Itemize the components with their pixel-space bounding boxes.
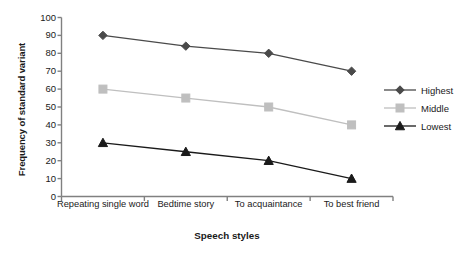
legend-swatch-square-icon [383,101,417,115]
series-line-middle [103,89,352,125]
x-axis-tick-labels: Repeating single wordBedtime storyTo acq… [0,199,464,233]
series-lowest [98,138,356,182]
legend-item-middle[interactable]: Middle [383,99,453,117]
data-point-diamond [264,49,272,57]
series-middle [99,85,356,129]
data-point-square [182,94,190,102]
legend-item-highest[interactable]: Highest [383,81,453,99]
series-line-highest [103,35,352,71]
data-point-square [265,103,273,111]
data-point-triangle [98,138,107,146]
data-point-square [396,104,404,112]
data-point-diamond [99,31,107,39]
legend-swatch-diamond-icon [383,83,417,97]
x-axis-title: Speech styles [61,230,393,241]
legend-label: Lowest [421,121,451,132]
series-line-lowest [103,143,352,179]
series-highest [99,31,356,75]
legend-label: Highest [421,85,453,96]
legend-item-lowest[interactable]: Lowest [383,117,453,135]
line-chart: Frequency of standard variant 1009080706… [0,0,464,255]
legend-label: Middle [421,103,449,114]
data-point-diamond [182,42,190,50]
data-point-square [99,85,107,93]
data-point-square [348,121,356,129]
x-tick-label: To best friend [303,199,400,211]
data-point-diamond [396,86,404,94]
data-point-diamond [347,67,355,75]
legend-swatch-triangle-icon [383,119,417,133]
chart-legend: HighestMiddleLowest [383,81,453,135]
